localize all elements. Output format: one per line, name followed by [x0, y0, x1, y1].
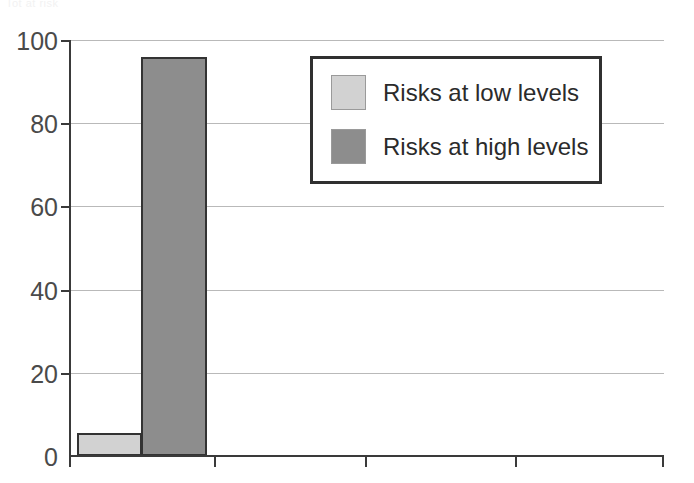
legend-box: Risks at low levels Risks at high levels — [310, 56, 602, 184]
legend-swatch-high-icon — [331, 129, 366, 164]
y-tick-80 — [61, 123, 70, 125]
legend-item-low: Risks at low levels — [331, 75, 579, 110]
y-tick-40 — [61, 290, 70, 292]
y-tick-label-20: 20 — [2, 362, 58, 387]
y-axis-line — [69, 40, 71, 458]
y-tick-label-0: 0 — [2, 445, 58, 470]
x-tick-0 — [69, 456, 71, 467]
y-tick-label-40: 40 — [2, 279, 58, 304]
y-tick-60 — [61, 206, 70, 208]
bar-risks-at-high-levels — [141, 57, 207, 456]
y-tick-100 — [61, 40, 70, 42]
legend-item-high: Risks at high levels — [331, 129, 588, 164]
gridline-100 — [70, 40, 664, 41]
y-tick-label-80: 80 — [2, 112, 58, 137]
y-tick-20 — [61, 373, 70, 375]
x-tick-3 — [515, 456, 517, 467]
y-tick-label-60: 60 — [2, 195, 58, 220]
legend-label-high: Risks at high levels — [383, 135, 588, 159]
legend-label-low: Risks at low levels — [383, 81, 579, 105]
bar-chart-figure: Tot at risk 100 80 60 40 20 0 Ri — [0, 0, 694, 483]
bar-risks-at-low-levels — [77, 433, 142, 456]
x-tick-1 — [214, 456, 216, 467]
x-tick-4 — [662, 456, 664, 467]
legend-swatch-low-icon — [331, 75, 366, 110]
x-tick-2 — [365, 456, 367, 467]
y-tick-label-100: 100 — [2, 29, 58, 54]
y-axis-tick-labels: 100 80 60 40 20 0 — [0, 0, 58, 483]
